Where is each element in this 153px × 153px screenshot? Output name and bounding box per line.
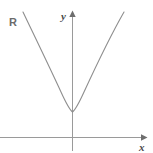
parabola-curve: [23, 12, 124, 112]
arrow-right-icon: [141, 134, 148, 141]
y-axis-label: y: [59, 10, 66, 22]
panel-label: R: [9, 16, 17, 28]
arrow-up-icon: [69, 11, 75, 18]
x-axis-label: x: [138, 141, 145, 153]
figure-canvas: y x R: [0, 0, 153, 153]
parabola-figure: y x R: [0, 0, 153, 153]
